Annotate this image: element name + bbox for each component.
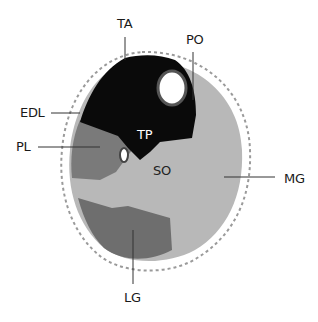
bone-fibula — [120, 148, 128, 162]
label-lg: LG — [124, 291, 141, 304]
leg-cross-section — [0, 0, 318, 322]
label-pl: PL — [16, 140, 30, 153]
label-edl: EDL — [20, 106, 45, 119]
label-mg: MG — [284, 172, 305, 185]
label-po: PO — [186, 33, 203, 46]
bone-tibia — [158, 71, 186, 105]
label-so: SO — [153, 164, 171, 177]
label-ta: TA — [117, 17, 132, 30]
label-tp: TP — [137, 128, 152, 141]
